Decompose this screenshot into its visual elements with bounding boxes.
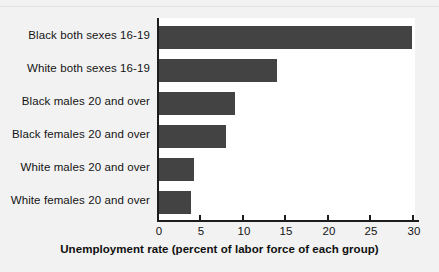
bar-white-females-20-and-over[interactable] bbox=[157, 191, 191, 214]
scan-edge-line bbox=[0, 6, 439, 7]
category-axis-labels: Black both sexes 16-19 White both sexes … bbox=[0, 18, 150, 220]
x-tick-label: 25 bbox=[351, 225, 391, 237]
x-tick-mark bbox=[284, 215, 286, 222]
x-tick-mark bbox=[199, 215, 201, 222]
x-axis-line bbox=[157, 220, 419, 222]
bar-chart-figure: Black both sexes 16-19 White both sexes … bbox=[0, 0, 439, 272]
x-tick-mark bbox=[412, 215, 414, 222]
category-label: Black females 20 and over bbox=[0, 128, 150, 140]
category-label: Black males 20 and over bbox=[0, 95, 150, 107]
x-tick-label: 10 bbox=[224, 225, 264, 237]
category-label: White both sexes 16-19 bbox=[0, 62, 150, 74]
x-tick-label: 0 bbox=[139, 225, 179, 237]
x-axis-caption: Unemployment rate (percent of labor forc… bbox=[0, 243, 439, 255]
bar-white-both-sexes-16-19[interactable] bbox=[157, 59, 277, 82]
category-label: White males 20 and over bbox=[0, 161, 150, 173]
x-tick-label: 30 bbox=[394, 225, 434, 237]
y-axis-line bbox=[157, 18, 159, 221]
bar-white-males-20-and-over[interactable] bbox=[157, 158, 194, 181]
x-tick-mark bbox=[242, 215, 244, 222]
x-tick-label: 15 bbox=[266, 225, 306, 237]
category-label: Black both sexes 16-19 bbox=[0, 29, 150, 41]
category-label: White females 20 and over bbox=[0, 194, 150, 206]
bar-black-both-sexes-16-19[interactable] bbox=[157, 26, 412, 49]
x-tick-mark bbox=[327, 215, 329, 222]
x-tick-label: 5 bbox=[181, 225, 221, 237]
x-tick-mark bbox=[369, 215, 371, 222]
x-tick-label: 20 bbox=[309, 225, 349, 237]
bar-black-males-20-and-over[interactable] bbox=[157, 92, 235, 115]
x-tick-mark bbox=[157, 215, 159, 222]
bar-black-females-20-and-over[interactable] bbox=[157, 125, 226, 148]
